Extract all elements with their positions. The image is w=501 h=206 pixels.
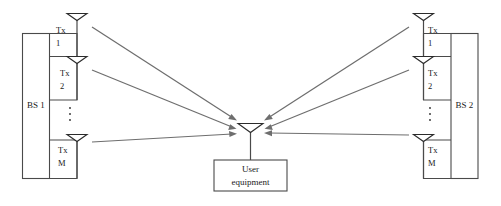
base-station-bs2: BS 2 Tx 1 Tx 2	[414, 14, 479, 179]
bs2-txm-label-line1: Tx	[428, 145, 438, 155]
bs1-tx1-antenna	[67, 14, 87, 57]
bs2-txm-antenna	[414, 135, 434, 179]
bs2-tx1-antenna-dish-icon	[414, 14, 434, 21]
bs2-tx2-antenna	[414, 57, 434, 101]
bs2-tx2-connector	[424, 57, 452, 101]
bs2-tx1-label-line2: 1	[428, 38, 432, 48]
ue-label-line1: User	[242, 164, 259, 174]
bs2-tx1-antenna	[414, 14, 434, 57]
arrowhead-icon	[265, 124, 273, 130]
bs2-tx2-label-line2: 2	[428, 81, 432, 91]
bs2-txm-label-line2: M	[428, 158, 436, 168]
bs1-tx2-antenna-dish-icon	[67, 57, 87, 64]
ue-label-line2: equipment	[232, 177, 270, 187]
signal-arrow-bs2-tx2	[265, 70, 410, 130]
bs1-tx2-label-line2: 2	[60, 81, 64, 91]
diagram-canvas: BS 1 Tx 1 Tx 2	[0, 0, 501, 206]
bs1-txm-label-line2: M	[58, 158, 66, 168]
signal-arrow-bs1-tx1	[92, 27, 237, 121]
bs1-txm-antenna	[67, 135, 87, 179]
base-station-bs1: BS 1 Tx 1 Tx 2	[23, 14, 88, 179]
bs2-antenna-ellipsis	[429, 107, 431, 121]
ue-receive-antenna-icon	[238, 124, 263, 133]
bs1-tx1-connector	[50, 34, 78, 57]
arrowhead-icon	[228, 114, 237, 121]
signal-arrow-bs2-tx1	[264, 27, 409, 121]
arrowhead-icon	[228, 124, 236, 130]
bs1-tx1-antenna-dish-icon	[67, 14, 87, 21]
bs1-tx2-connector	[50, 57, 78, 101]
signal-arrows-from-bs1	[92, 27, 237, 142]
arrowhead-icon	[229, 131, 237, 137]
bs1-txm-label-line1: Tx	[58, 145, 68, 155]
bs2-tx2-label-line1: Tx	[428, 68, 438, 78]
signal-arrow-bs1-txm	[92, 131, 237, 142]
bs1-tx1-label-line1: Tx	[56, 25, 66, 35]
arrowhead-icon	[264, 114, 273, 121]
bs1-tx1-label-line2: 1	[56, 38, 60, 48]
bs1-tx2-label-line1: Tx	[60, 68, 70, 78]
bs2-tx2-antenna-dish-icon	[414, 57, 434, 64]
signal-arrow-bs1-tx2	[92, 70, 237, 130]
arrowhead-icon	[264, 130, 272, 136]
signal-arrows-from-bs2	[264, 27, 409, 136]
signal-arrow-bs2-txm	[264, 130, 409, 136]
bs1-label: BS 1	[27, 100, 45, 110]
mimo-network-diagram: BS 1 Tx 1 Tx 2	[0, 0, 501, 206]
bs1-antenna-ellipsis	[69, 107, 71, 121]
bs1-tx2-antenna	[67, 57, 87, 101]
bs2-tx1-label-line1: Tx	[428, 25, 438, 35]
bs2-label: BS 2	[456, 100, 474, 110]
